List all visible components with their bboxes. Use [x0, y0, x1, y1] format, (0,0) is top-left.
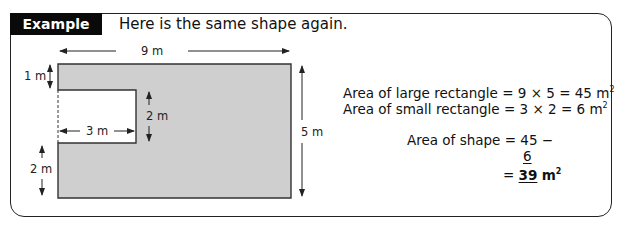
result-equals: =: [503, 167, 514, 183]
result-unit-power: 2: [556, 167, 562, 176]
label-notch-height: 2 m: [146, 109, 168, 123]
shape-area-subtrahend: 6: [523, 148, 532, 164]
small-rect-unit-power: 2: [603, 101, 608, 110]
result-unit: m: [542, 167, 556, 183]
working-small-rectangle: Area of small rectangle = 3 × 2 = 6 m2: [343, 98, 608, 117]
working-shape-line1: Area of shape = 45 −: [407, 132, 553, 148]
label-height-right: 5 m: [301, 125, 323, 139]
small-rect-expression: = 3 × 2 = 6 m: [504, 101, 603, 117]
small-rect-label: Area of small rectangle: [343, 101, 500, 117]
label-top-gap: 1 m: [24, 69, 46, 83]
label-bottom-gap: 2 m: [30, 162, 52, 176]
large-rect-unit-power: 2: [609, 85, 614, 94]
working-shape-result: = 39 m2: [503, 164, 561, 183]
label-notch-width: 3 m: [86, 124, 108, 138]
shape-area-label: Area of shape: [407, 132, 500, 148]
result-value: 39: [519, 167, 538, 183]
label-width-top: 9 m: [141, 44, 163, 58]
shape-area-line1: = 45 −: [505, 132, 553, 148]
